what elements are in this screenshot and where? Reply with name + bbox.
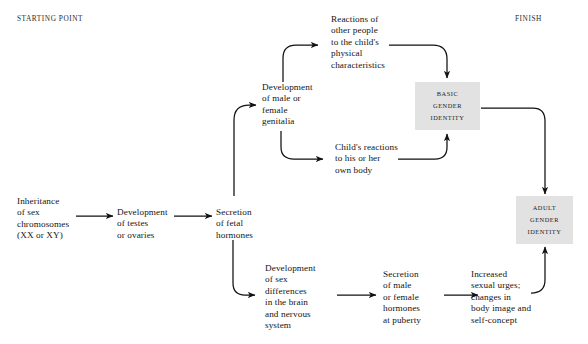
basic-line-3: IDENTITY	[431, 112, 465, 124]
adult-line-2: GENDER	[530, 214, 559, 226]
box-adult-gender-identity: ADULT GENDER IDENTITY	[516, 196, 573, 244]
arrow-genitalia-to-reactions-others	[283, 45, 318, 82]
node-inheritance: Inheritance of sex chromosomes (XX or XY…	[17, 196, 85, 242]
adult-line-1: ADULT	[533, 202, 557, 214]
basic-line-2: GENDER	[433, 100, 462, 112]
adult-line-3: IDENTITY	[528, 226, 562, 238]
box-basic-gender-identity: BASIC GENDER IDENTITY	[415, 82, 480, 130]
node-testes-ovaries: Development of testes or ovaries	[117, 207, 179, 241]
arrow-fetal-to-sex-differences	[233, 240, 255, 295]
node-reactions-of-others: Reactions of other people to the child's…	[331, 14, 397, 71]
flowchart-canvas: STARTING POINT FINISH	[0, 0, 588, 344]
arrow-fetal-to-genitalia	[234, 105, 256, 196]
arrow-basic-to-adult	[481, 108, 545, 194]
node-childs-reactions: Child's reactions to his or her own body	[335, 142, 407, 176]
basic-line-1: BASIC	[437, 88, 458, 100]
node-fetal-hormones: Secretion of fetal hormones	[216, 207, 268, 241]
node-sexual-urges: Increased sexual urges; changes in body …	[471, 269, 555, 326]
node-genitalia: Development of male or female genitalia	[262, 82, 324, 128]
arrow-reactions-others-to-basic	[389, 45, 447, 78]
node-puberty-hormones: Secretion of male or female hormones at …	[383, 269, 439, 326]
node-sex-differences: Development of sex differences in the br…	[265, 263, 329, 331]
arrow-genitalia-to-childs-reactions	[281, 131, 323, 159]
